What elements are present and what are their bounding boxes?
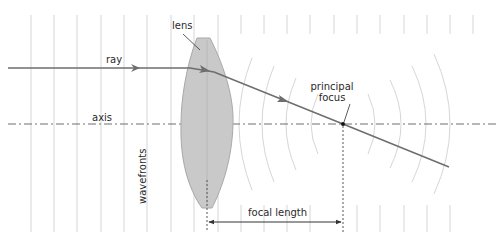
axis-label: axis <box>92 112 112 123</box>
principal-focus-label-2: focus <box>319 92 346 103</box>
lens-diagram: lens ray axis principal focus wavefronts… <box>0 0 499 237</box>
principal-focus-label-1: principal <box>310 81 353 92</box>
principal-focus-point <box>341 122 345 126</box>
lens-label: lens <box>172 20 192 31</box>
wavefronts-label: wavefronts <box>137 149 148 204</box>
ray-label: ray <box>106 54 122 65</box>
focus-label-leader <box>344 104 350 122</box>
focal-length-label: focal length <box>248 207 307 218</box>
